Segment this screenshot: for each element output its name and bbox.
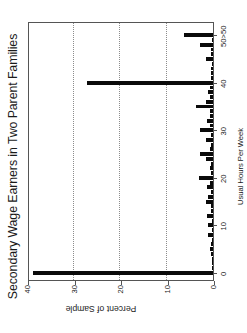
x-tick-label-50>50: 50>50 [219,16,228,56]
bar [211,52,213,56]
bar [211,76,213,80]
bar [87,81,213,85]
x-tick-mark-0 [214,273,217,274]
bar [210,247,213,251]
bar [207,185,213,189]
gridline-10 [166,23,167,280]
bar [206,200,213,204]
bar [211,204,213,208]
chart-figure-rotator: Secondary Wage Earners in Two Parent Fam… [0,0,247,333]
bar [200,152,213,156]
y-tick-label-20: 20 [116,285,125,313]
bar [211,209,213,213]
bar [210,124,213,128]
bar [199,176,213,180]
gridline-20 [119,23,120,280]
bar [212,62,213,66]
bar [210,109,213,113]
x-tick-mark-20 [214,178,217,179]
bar [33,271,213,275]
bar [196,105,213,109]
bar [211,133,213,137]
bar [210,95,213,99]
x-tick-mark-40 [214,83,217,84]
bar [210,114,213,118]
bar [184,33,213,37]
x-tick-label-40: 40 [219,64,228,104]
bar [208,195,213,199]
x-tick-mark-50 [214,35,217,36]
y-tick-label-30: 30 [70,285,79,313]
bar [200,128,213,132]
bar [212,219,213,223]
bar [210,166,213,170]
y-tick-label-40: 40 [23,285,32,313]
bar [212,238,213,242]
bar [210,147,213,151]
bar [212,38,213,42]
plot-area [28,22,214,281]
bar [208,90,213,94]
bar [207,214,213,218]
bar [206,57,213,61]
bar [211,190,213,194]
plot-inner [29,23,213,280]
bar [208,223,213,227]
x-tick-label-30: 30 [219,111,228,151]
y-tick-label-10: 10 [163,285,172,313]
bar [206,100,213,104]
y-tick-label-0: 0 [209,285,218,313]
bar [207,119,214,123]
bar [211,242,213,246]
bar [211,171,213,175]
bar [210,86,213,90]
x-axis-title: Usual Hours Per Week [236,0,245,333]
bar [212,228,213,232]
bar [210,181,213,185]
bar [211,252,213,256]
bar [206,138,213,142]
bar [206,157,213,161]
bar [200,43,213,47]
y-axis-title: Percent of Sample [31,304,171,314]
bar [211,143,213,147]
bar [212,257,213,261]
bar [208,233,213,237]
x-tick-label-20: 20 [219,159,228,199]
x-tick-mark-30 [214,130,217,131]
bar [211,67,213,71]
chart-figure: Secondary Wage Earners in Two Parent Fam… [0,0,247,333]
x-tick-label-10: 10 [219,206,228,246]
gridline-30 [73,23,74,280]
x-tick-mark-10 [214,225,217,226]
bar [212,261,213,265]
bar [211,48,213,52]
x-tick-label-0: 0 [219,254,228,294]
bar [211,71,213,75]
bar [211,162,213,166]
chart-title: Secondary Wage Earners in Two Parent Fam… [6,0,20,333]
bar [212,266,213,270]
